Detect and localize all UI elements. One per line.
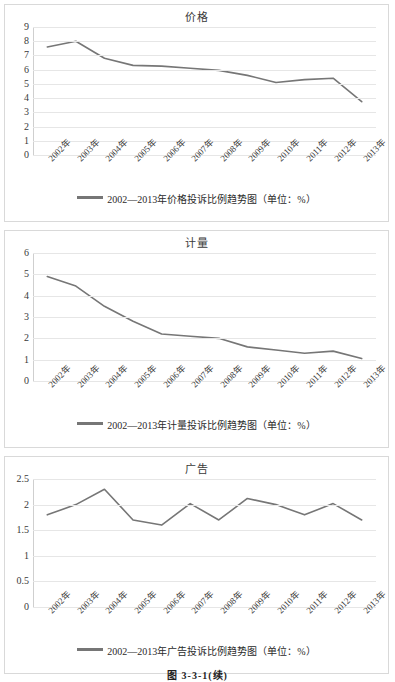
y-axis-tick-label: 7 — [24, 50, 29, 60]
y-axis-tick-label: 1 — [24, 136, 29, 146]
grid-line — [33, 27, 376, 28]
data-series-polyline — [47, 489, 361, 525]
y-axis-tick-label: 0 — [24, 602, 29, 612]
chart-title: 价格 — [5, 8, 388, 24]
y-axis-tick-label: 4 — [24, 93, 29, 103]
y-axis-tick-label: 0.5 — [17, 576, 30, 586]
y-axis-tick-label: 0 — [24, 376, 29, 386]
grid-line — [33, 296, 376, 297]
chart-legend: 2002—2013年价格投诉比例趋势图（单位：%） — [5, 191, 388, 206]
y-axis-tick-label: 1 — [24, 355, 29, 365]
series-line — [33, 27, 376, 155]
chart-title: 广告 — [5, 460, 388, 476]
legend-label: 2002—2013年价格投诉比例趋势图（单位：%） — [107, 194, 315, 205]
chart-title: 计量 — [5, 234, 388, 250]
grid-line — [33, 274, 376, 275]
grid-line — [33, 505, 376, 506]
y-axis-tick-label: 2 — [24, 122, 29, 132]
chart-legend: 2002—2013年广告投诉比例趋势图（单位：%） — [5, 643, 388, 658]
grid-line — [33, 70, 376, 71]
grid-line — [33, 530, 376, 531]
y-axis-tick-label: 9 — [24, 22, 29, 32]
grid-line — [33, 556, 376, 557]
y-axis-tick-label: 5 — [24, 79, 29, 89]
plot-area: 0123456789 — [33, 27, 376, 155]
y-axis-tick-label: 2 — [24, 333, 29, 343]
legend-label: 2002—2013年广告投诉比例趋势图（单位：%） — [107, 646, 315, 657]
chart-panel-measurement: 计量 0123456 2002年2003年2004年2005年2006年2007… — [4, 230, 389, 448]
y-axis-tick-label: 0 — [24, 150, 29, 160]
y-axis-tick-label: 2 — [24, 500, 29, 510]
grid-line — [33, 98, 376, 99]
y-axis-tick-label: 6 — [24, 248, 29, 258]
legend-line-swatch — [77, 196, 103, 199]
chart-panel-advertising: 广告 00.511.522.5 2002年2003年2004年2005年2006… — [4, 456, 389, 674]
y-axis-tick-label: 2.5 — [17, 474, 30, 484]
grid-line — [33, 253, 376, 254]
y-axis-tick-label: 6 — [24, 65, 29, 75]
data-series-polyline — [47, 41, 361, 101]
y-axis-tick-label: 8 — [24, 36, 29, 46]
y-axis-tick-label: 3 — [24, 312, 29, 322]
grid-line — [33, 55, 376, 56]
grid-line — [33, 360, 376, 361]
grid-line — [33, 41, 376, 42]
y-axis-tick-label: 3 — [24, 107, 29, 117]
y-axis-tick-label: 5 — [24, 269, 29, 279]
grid-line — [33, 127, 376, 128]
legend-line-swatch — [77, 422, 103, 425]
figure-caption: 图 3-3-1(续) — [0, 667, 395, 682]
series-line — [33, 479, 376, 607]
grid-line — [33, 338, 376, 339]
y-axis-tick-label: 1.5 — [17, 525, 30, 535]
legend-label: 2002—2013年计量投诉比例趋势图（单位：%） — [107, 420, 315, 431]
y-axis-tick-label: 1 — [24, 551, 29, 561]
figure-page: 价格 0123456789 2002年2003年2004年2005年2006年2… — [0, 0, 395, 682]
grid-line — [33, 112, 376, 113]
legend-line-swatch — [77, 648, 103, 651]
plot-area: 00.511.522.5 — [33, 479, 376, 607]
grid-line — [33, 581, 376, 582]
grid-line — [33, 479, 376, 480]
chart-panel-price: 价格 0123456789 2002年2003年2004年2005年2006年2… — [4, 4, 389, 222]
grid-line — [33, 317, 376, 318]
plot-area: 0123456 — [33, 253, 376, 381]
y-axis-tick-label: 4 — [24, 291, 29, 301]
grid-line — [33, 84, 376, 85]
chart-legend: 2002—2013年计量投诉比例趋势图（单位：%） — [5, 417, 388, 432]
